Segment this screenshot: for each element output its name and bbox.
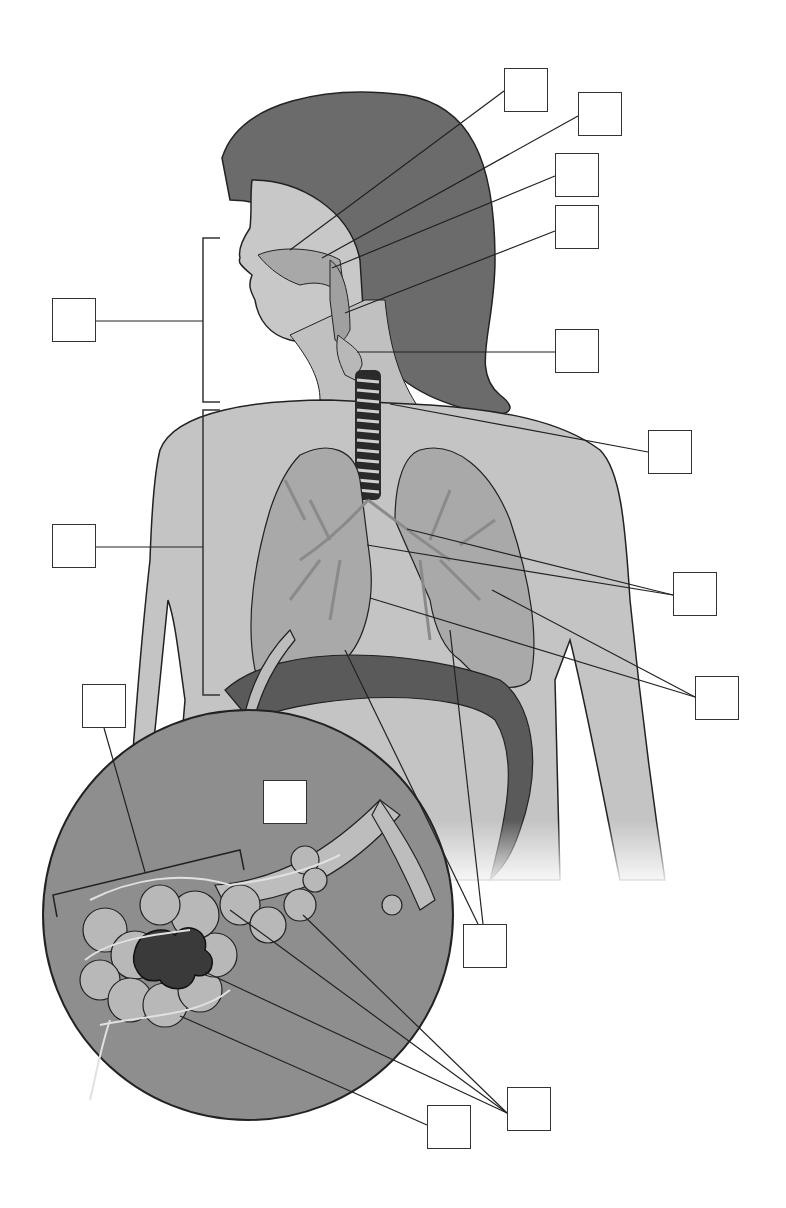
label-box-upper-tract-group[interactable]: [52, 298, 96, 342]
label-box-alveolar-sac-group[interactable]: [82, 684, 126, 728]
label-box-bronchi[interactable]: [673, 572, 717, 616]
label-box-bronchioles[interactable]: [463, 924, 507, 968]
upper-tract-bracket: [203, 238, 220, 402]
label-box-larynx[interactable]: [555, 329, 599, 373]
label-box-pharynx[interactable]: [555, 205, 599, 249]
label-box-nostril[interactable]: [578, 92, 622, 136]
label-box-inset-title[interactable]: [263, 780, 307, 824]
label-box-nasal-cavity[interactable]: [504, 68, 548, 112]
label-box-lower-tract-group[interactable]: [52, 524, 96, 568]
label-box-pharynx-upper[interactable]: [555, 153, 599, 197]
label-box-capillaries[interactable]: [427, 1105, 471, 1149]
label-box-trachea[interactable]: [648, 430, 692, 474]
label-box-alveoli[interactable]: [507, 1087, 551, 1131]
label-box-lungs[interactable]: [695, 676, 739, 720]
respiratory-diagram: [0, 0, 786, 1208]
